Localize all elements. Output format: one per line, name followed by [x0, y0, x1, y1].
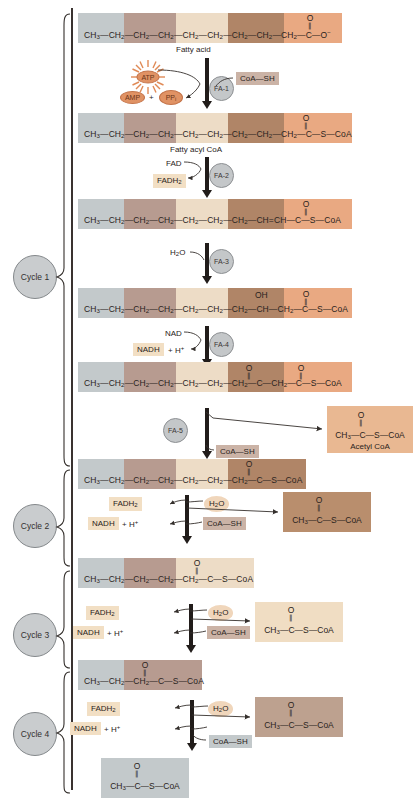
nadh-chip-4: NADH	[70, 722, 101, 735]
double-bond-bars: ∥	[285, 614, 297, 621]
atp-label: ATP	[137, 71, 160, 84]
reaction-arrow-fa-1	[205, 58, 209, 102]
water-chip-4: H2O	[208, 701, 233, 717]
fadh2-chip-2: FADH2	[109, 497, 142, 511]
cycle-3-text: Cycle 3	[21, 630, 49, 640]
plus-sign-amp-ppi: +	[149, 93, 154, 102]
nadh-chip-1-label: NADH	[137, 345, 160, 354]
carbonyl-oxygen-hydroxyacyl-coa: O ∥	[300, 290, 312, 305]
double-bond-bars: ∥	[300, 122, 312, 129]
coash-chip-4-label: CoA—SH	[211, 628, 246, 637]
carbonyl-oxygen-c14-acyl-coa: O ∥	[243, 460, 255, 475]
nadh-chip-3: NADH	[73, 626, 104, 639]
caption-fatty-acyl-coa: Fatty acyl CoA	[170, 145, 222, 154]
nadh-chip-1: NADH	[133, 343, 164, 356]
double-bond-bars: ∥	[243, 468, 255, 475]
fadh2-chip-1: FADH2	[153, 174, 186, 188]
formula-acetyl-coa-3: CH3—C—S—CoA	[261, 625, 337, 635]
formula-acetyl-coa-4: CH3—C—S—CoA	[261, 720, 337, 730]
carbonyl-oxygen-acetyl-coa-2: O ∥	[313, 496, 325, 511]
enzyme-fa-4-label: FA-4	[214, 341, 229, 348]
fadh2-chip-3-label: FADH2	[90, 608, 115, 617]
carbonyl-oxygen-enoyl-coa: O ∥	[300, 200, 312, 215]
atp-starburst: ATP	[131, 60, 165, 94]
product-box-acetyl-coa-1: O ∥ CH3—C—S—CoA Acetyl CoA	[327, 406, 413, 453]
nadh-chip-2: NADH	[88, 517, 119, 530]
nadh-chip-3-label: NADH	[77, 628, 100, 637]
amp-label: AMP	[120, 91, 145, 104]
enzyme-fa-1[interactable]: FA-1	[209, 76, 234, 101]
carbonyl-oxygen-c12-acyl-coa: O ∥	[191, 559, 203, 574]
enzyme-fa-3[interactable]: FA-3	[209, 249, 234, 274]
carbonyl-oxygen-c10-acyl-coa: O ∥	[139, 661, 151, 676]
nadh-plus-h-2: + H+	[122, 519, 138, 529]
carbonyl-oxygen-acetyl-coa-5: O ∥	[131, 762, 143, 777]
enzyme-fa-5-label: FA-5	[168, 427, 183, 434]
product-box-acetyl-coa-3: O ∥ CH3—C—S—CoA	[255, 602, 343, 642]
cycle-label-1[interactable]: Cycle 1	[13, 255, 57, 299]
fadh2-chip-1-label: FADH2	[157, 176, 182, 185]
caption-fatty-acid: Fatty acid	[176, 45, 211, 54]
fad-label: FAD	[166, 159, 182, 168]
cycle-label-4[interactable]: Cycle 4	[13, 712, 57, 756]
reaction-arrow-cycle-2	[185, 495, 189, 537]
reaction-arrow-fa-5	[205, 408, 209, 452]
double-bond-bars: ∥	[313, 504, 325, 511]
enzyme-fa-3-label: FA-3	[214, 258, 229, 265]
fadh2-chip-4-label: FADH2	[91, 704, 116, 713]
carbonyl-oxygen-fatty-acid: O ∥	[304, 14, 316, 29]
fadh2-chip-4: FADH2	[87, 702, 120, 716]
water-chip-2-label: H2O	[209, 499, 224, 508]
reaction-arrow-cycle-3	[189, 604, 193, 646]
double-bond-bars: ∥	[191, 567, 203, 574]
amp-text: AMP	[125, 94, 140, 101]
fadh2-chip-3: FADH2	[86, 606, 119, 620]
formula-acetyl-coa-1: CH3—C—S—CoA	[333, 430, 407, 440]
enzyme-fa-5[interactable]: FA-5	[163, 418, 188, 443]
nadh-plus-h-4: + H+	[104, 724, 120, 734]
beta-oxidation-diagram: O ∥ CH3—CH2—CH2—CH2—CH2—CH2—CH2—CH2—CH2—…	[0, 0, 416, 807]
coash-chip-2-label: CoA—SH	[220, 447, 255, 456]
water-chip-3: H2O	[208, 605, 233, 621]
pathway-spine	[71, 8, 73, 790]
coash-chip-5-label: CoA—SH	[213, 737, 248, 746]
coash-chip-1-label: CoA—SH	[240, 74, 275, 83]
carbonyl-oxygen-acetyl-coa-1: O ∥	[355, 411, 367, 426]
coash-chip-5: CoA—SH	[209, 735, 252, 748]
ppi-label: PPi	[159, 90, 183, 105]
double-bond-bars: ∥	[285, 709, 297, 716]
nadh-plus-h-3: + H+	[107, 628, 123, 638]
nadh-chip-2-label: NADH	[92, 519, 115, 528]
cycle-2-text: Cycle 2	[21, 521, 49, 531]
coash-chip-3-label: CoA—SH	[207, 519, 242, 528]
product-box-acetyl-coa-2: O ∥ CH3—C—S—CoA	[283, 492, 371, 532]
enzyme-fa-2[interactable]: FA-2	[209, 163, 234, 188]
enzyme-fa-2-label: FA-2	[214, 172, 229, 179]
enzyme-fa-4[interactable]: FA-4	[209, 332, 234, 357]
keto-oxygen-ketoacyl-coa: O ∥	[243, 364, 255, 379]
formula-acetyl-coa-5: CH3—C—S—CoA	[107, 781, 183, 791]
carbonyl-oxygen-fatty-acyl-coa: O ∥	[300, 114, 312, 129]
product-box-acetyl-coa-4: O ∥ CH3—C—S—CoA	[255, 697, 343, 737]
water-chip-2: H2O	[204, 496, 229, 512]
hydroxyl-label: OH	[255, 291, 268, 300]
double-bond-bars: ∥	[300, 208, 312, 215]
cycle-label-2[interactable]: Cycle 2	[13, 504, 57, 548]
water-chip-4-label: H2O	[213, 704, 228, 713]
double-bond-bars: ∥	[139, 669, 151, 676]
coash-chip-1: CoA—SH	[236, 72, 279, 85]
double-bond-bars: ∥	[304, 22, 316, 29]
cycle-label-3[interactable]: Cycle 3	[13, 613, 57, 657]
carbonyl-oxygen-acetyl-coa-3: O ∥	[285, 606, 297, 621]
water-label-1: H2O	[170, 248, 185, 257]
double-bond-bars: ∥	[131, 770, 143, 777]
enzyme-fa-1-label: FA-1	[214, 85, 229, 92]
coash-chip-3: CoA—SH	[203, 517, 246, 530]
fadh2-chip-2-label: FADH2	[113, 499, 138, 508]
reaction-arrow-cycle-4	[190, 700, 194, 744]
ppi-text: PPi	[166, 94, 177, 102]
caption-acetyl-coa-1: Acetyl CoA	[333, 442, 407, 451]
atp-text: ATP	[141, 74, 154, 81]
formula-acetyl-coa-2: CH3—C—S—CoA	[289, 515, 365, 525]
nadh-chip-4-label: NADH	[74, 724, 97, 733]
